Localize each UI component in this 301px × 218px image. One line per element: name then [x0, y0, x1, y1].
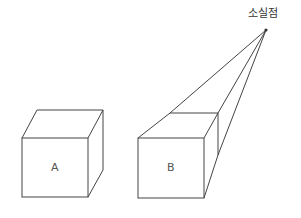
cube-b: [138, 113, 218, 198]
vanishing-point-label: 소실점: [248, 4, 278, 20]
vanishing-point-dot: [264, 28, 267, 31]
cube-b-label: B: [167, 162, 175, 173]
perspective-diagram: 소실점 A B: [0, 0, 301, 218]
diagram-canvas: [0, 0, 301, 218]
cube-a-label: A: [51, 162, 59, 173]
cube-a: [22, 110, 103, 197]
